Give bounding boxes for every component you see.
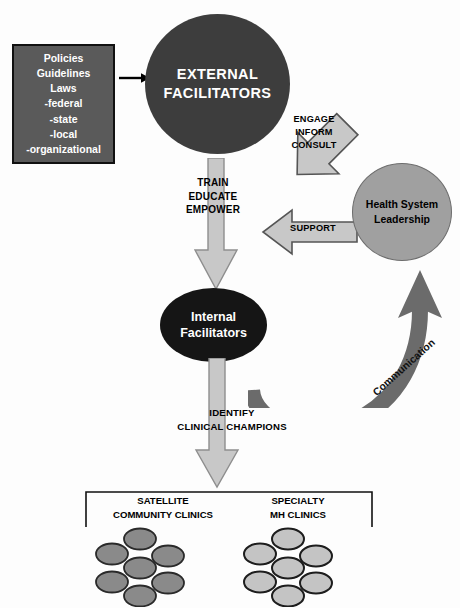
clinic-dot xyxy=(124,529,156,550)
clinic-dot xyxy=(300,546,332,567)
clinic-dot xyxy=(124,586,156,607)
train-line: TRAIN xyxy=(168,176,258,190)
arrow-communication-icon xyxy=(248,248,448,408)
specialty-mh-clinics-title: SPECIALTY MH CLINICS xyxy=(228,494,368,521)
support-line: SUPPORT xyxy=(283,222,343,236)
policies-guidelines-laws-box: Policies Guidelines Laws -federal -state… xyxy=(12,44,115,164)
external-facilitators-line1: EXTERNAL xyxy=(177,65,258,84)
clinic-dot xyxy=(124,558,156,579)
leadership-line2: Leadership xyxy=(374,212,430,227)
consult-line: CONSULT xyxy=(283,139,345,152)
federal-line: -federal xyxy=(45,96,83,111)
clinic-dot xyxy=(244,572,276,593)
specialty-clinic-dot-cluster xyxy=(238,527,368,607)
external-facilitators-line2: FACILITATORS xyxy=(164,84,272,103)
local-line: -local xyxy=(50,127,77,142)
leadership-line1: Health System xyxy=(366,197,438,212)
engage-inform-consult-label: ENGAGE INFORM CONSULT xyxy=(283,113,345,152)
clinical-champions-line: CLINICAL CHAMPIONS xyxy=(152,420,312,434)
laws-line: Laws xyxy=(50,81,76,96)
satellite-community-clinics-title: SATELLITE COMMUNITY CLINICS xyxy=(78,494,248,521)
satellite-title-line1: SATELLITE xyxy=(78,494,248,508)
clinic-dot xyxy=(96,544,128,565)
clinic-dot xyxy=(152,573,184,594)
identify-line: IDENTIFY xyxy=(152,406,312,420)
empower-line: EMPOWER xyxy=(168,203,258,217)
facilitation-framework-diagram: Policies Guidelines Laws -federal -state… xyxy=(0,0,460,608)
identify-clinical-champions-label: IDENTIFY CLINICAL CHAMPIONS xyxy=(152,406,312,433)
inform-line: INFORM xyxy=(283,126,345,139)
internal-facilitators-line1: Internal xyxy=(191,309,236,325)
health-system-leadership-node: Health System Leadership xyxy=(352,163,452,261)
satellite-title-line2: COMMUNITY CLINICS xyxy=(78,508,248,522)
specialty-title-line2: MH CLINICS xyxy=(228,508,368,522)
satellite-clinic-dot-cluster xyxy=(90,527,220,607)
engage-line: ENGAGE xyxy=(283,113,345,126)
clinic-dot xyxy=(272,586,304,607)
educate-line: EDUCATE xyxy=(168,190,258,204)
clinic-dot xyxy=(300,573,332,594)
clinic-dot xyxy=(152,546,184,567)
guidelines-line: Guidelines xyxy=(37,66,91,81)
clinic-dot xyxy=(244,544,276,565)
state-line: -state xyxy=(49,112,77,127)
external-facilitators-node: EXTERNAL FACILITATORS xyxy=(145,14,290,154)
internal-facilitators-line2: Facilitators xyxy=(180,325,247,341)
train-educate-empower-label: TRAIN EDUCATE EMPOWER xyxy=(168,176,258,217)
clinic-dot xyxy=(96,572,128,593)
clinic-dot xyxy=(272,529,304,550)
clinic-dot xyxy=(272,558,304,579)
specialty-title-line1: SPECIALTY xyxy=(228,494,368,508)
organizational-line: -organizational xyxy=(26,142,101,157)
support-label: SUPPORT xyxy=(283,222,343,236)
policies-line: Policies xyxy=(44,51,84,66)
